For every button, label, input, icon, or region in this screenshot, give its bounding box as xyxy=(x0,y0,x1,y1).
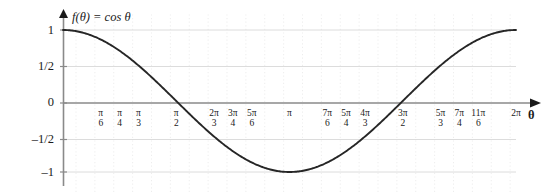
x-tick-label-11: 3π2 xyxy=(386,109,420,128)
y-tick-label-1: 1 xyxy=(28,24,54,37)
x-tick-denominator-3: 2 xyxy=(159,119,193,129)
x-tick-denominator-10: 3 xyxy=(348,119,382,129)
function-expression-label: f(θ) = cos θ xyxy=(72,10,131,25)
function-expression-text: f(θ) = cos θ xyxy=(72,10,131,24)
x-tick-label-6: 5π6 xyxy=(235,109,269,128)
x-tick-label-3: π2 xyxy=(159,109,193,128)
y-tick-label-neg-half: –1/2 xyxy=(14,133,54,146)
y-tick-label-neg-1: –1 xyxy=(22,166,54,179)
x-tick-denominator-2: 3 xyxy=(122,119,156,129)
y-tick-label-half: 1/2 xyxy=(20,60,54,73)
x-tick-numerator-7: π xyxy=(273,109,307,119)
plot-canvas xyxy=(0,0,558,192)
x-tick-denominator-11: 2 xyxy=(386,119,420,129)
cosine-function-chart: 1 1/2 0 –1/2 –1 f(θ) = cos θ θ π6π4π3π22… xyxy=(0,0,558,192)
x-tick-label-14: 11π6 xyxy=(461,109,495,128)
x-tick-label-10: 4π3 xyxy=(348,109,382,128)
x-tick-denominator-14: 6 xyxy=(461,119,495,129)
x-tick-label-15: 2π xyxy=(499,109,533,119)
x-tick-numerator-15: 2π xyxy=(499,109,533,119)
x-tick-label-7: π xyxy=(273,109,307,119)
x-tick-label-2: π3 xyxy=(122,109,156,128)
x-tick-denominator-6: 6 xyxy=(235,119,269,129)
y-tick-label-0: 0 xyxy=(28,96,54,109)
